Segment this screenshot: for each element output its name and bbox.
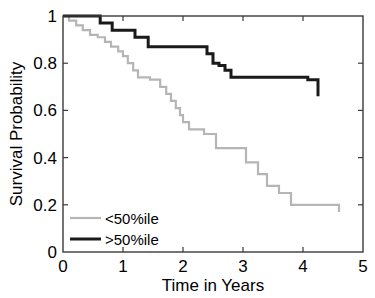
y-axis-title: Survival Probability	[7, 61, 26, 206]
y-tick-label-0.6: 0.6	[33, 101, 57, 120]
x-tick-label-3: 3	[238, 257, 247, 276]
y-tick-label-0: 0	[48, 243, 57, 262]
legend-label-above-median: >50%ile	[105, 231, 159, 248]
x-tick-label-4: 4	[298, 257, 307, 276]
x-tick-label-0: 0	[58, 257, 67, 276]
legend-label-below-median: <50%ile	[105, 210, 159, 227]
x-tick-label-2: 2	[178, 257, 187, 276]
kaplan-meier-plot: 1 0.8 0.6 0.4 0.2 0 0 1 2 3 4 5 Time in …	[0, 0, 375, 298]
x-tick-label-5: 5	[358, 257, 367, 276]
x-tick-label-1: 1	[118, 257, 127, 276]
y-tick-label-0.2: 0.2	[33, 196, 57, 215]
y-tick-label-0.4: 0.4	[33, 149, 57, 168]
x-axis-title: Time in Years	[162, 276, 264, 295]
survival-curve-figure: 1 0.8 0.6 0.4 0.2 0 0 1 2 3 4 5 Time in …	[0, 0, 375, 298]
y-tick-label-1: 1	[48, 7, 57, 26]
y-tick-label-0.8: 0.8	[33, 54, 57, 73]
